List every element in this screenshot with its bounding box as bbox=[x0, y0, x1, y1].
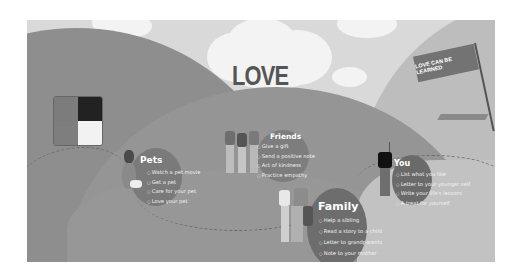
puzzle-icon bbox=[53, 96, 103, 146]
friends-item: Act of kindness bbox=[257, 161, 315, 171]
you-item: Letter to your younger self bbox=[396, 180, 470, 190]
you-illustration bbox=[375, 142, 395, 197]
family-item: Note to your mother bbox=[319, 248, 383, 259]
you-item: A treat for yourself bbox=[396, 199, 470, 209]
pets-item: Care for your pet bbox=[147, 187, 201, 197]
family-item: Letter to grandparents bbox=[319, 237, 383, 248]
flag-shadow bbox=[437, 114, 488, 120]
family-item: Help a sibling bbox=[319, 215, 383, 226]
family-illustration bbox=[277, 184, 319, 246]
pets-list: Watch a pet movie Get a pet Care for you… bbox=[147, 168, 201, 206]
page-title: LOVE bbox=[232, 60, 279, 92]
friends-item: Practice empathy bbox=[257, 171, 315, 181]
love-infographic: LOVE LOVE CAN BE LEARNED Pets Watch a pe… bbox=[27, 20, 495, 262]
family-list: Help a sibling Read a story to a child L… bbox=[319, 215, 383, 259]
friends-list: Give a gift Send a positive note Act of … bbox=[257, 142, 315, 180]
you-item: List what you like bbox=[396, 170, 470, 180]
dog-illustration bbox=[121, 150, 139, 190]
friends-label: Friends bbox=[270, 132, 301, 141]
pets-item: Love your pet bbox=[147, 197, 201, 207]
family-label: Family bbox=[318, 200, 358, 213]
you-list: List what you like Letter to your younge… bbox=[396, 170, 470, 208]
friends-item: Give a gift bbox=[257, 142, 315, 152]
you-label: You bbox=[394, 159, 410, 168]
friends-item: Send a positive note bbox=[257, 152, 315, 162]
family-item: Read a story to a child bbox=[319, 226, 383, 237]
you-item: Write your life's lessons bbox=[396, 189, 470, 199]
pets-item: Watch a pet movie bbox=[147, 168, 201, 178]
pets-item: Get a pet bbox=[147, 178, 201, 188]
cloud bbox=[332, 67, 367, 87]
pets-label: Pets bbox=[140, 155, 162, 165]
